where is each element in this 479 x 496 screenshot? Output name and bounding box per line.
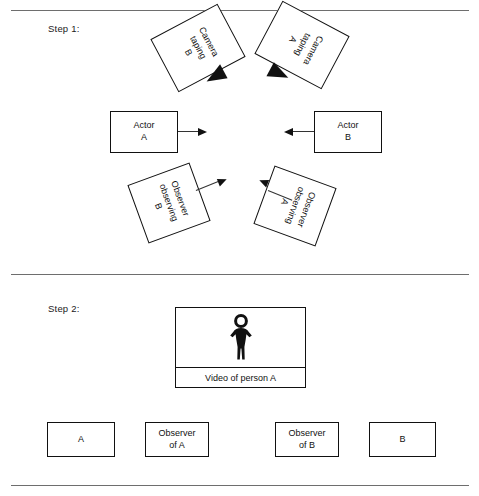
person-figure-icon (228, 314, 254, 362)
divider-bottom (11, 485, 469, 486)
arrow-left-icon (284, 128, 293, 136)
divider-middle (11, 274, 469, 275)
participant-box-a: A (47, 422, 115, 457)
participant-observer-of-b-label: Observer of B (288, 428, 325, 452)
video-screen (176, 308, 305, 368)
actor-b-label: Actor B (337, 120, 358, 144)
actor-a-arrow-line (178, 131, 199, 132)
actor-b-box: Actor B (314, 111, 382, 153)
video-monitor: Video of person A (175, 307, 306, 388)
observer-observing-b-box: Observer observing B (127, 163, 210, 244)
participant-box-b: B (369, 422, 436, 457)
participant-box-observer-of-b: Observer of B (275, 422, 339, 457)
figure-canvas: Step 1: Camera taping B Camera taping A … (0, 0, 479, 496)
participant-b-label: B (399, 434, 405, 446)
observer-observing-b-label: Observer observing B (146, 179, 192, 228)
actor-a-label: Actor A (133, 120, 154, 144)
step-1-label: Step 1: (48, 23, 80, 34)
camera-taping-b-box: Camera taping B (150, 4, 245, 93)
actor-a-box: Actor A (110, 111, 178, 153)
observer-observing-b-group: Observer observing B (136, 172, 202, 234)
step-2-label: Step 2: (48, 303, 80, 314)
participant-box-observer-of-a: Observer of A (145, 422, 209, 457)
arrow-up-right-icon (217, 176, 228, 187)
observer-observing-a-group: Observer observing A (262, 175, 328, 237)
video-caption: Video of person A (176, 368, 305, 388)
camera-taping-b-label: Camera taping B (175, 26, 221, 71)
camera-taping-b-group: Camera taping B (160, 18, 236, 78)
observer-observing-a-label: Observer observing A (272, 182, 318, 231)
participant-observer-of-a-label: Observer of A (158, 428, 195, 452)
participant-a-label: A (78, 434, 84, 446)
camera-taping-a-label: Camera taping A (279, 23, 325, 68)
divider-top (11, 10, 469, 11)
actor-b-arrow-line (293, 131, 314, 132)
arrow-right-icon (198, 128, 207, 136)
